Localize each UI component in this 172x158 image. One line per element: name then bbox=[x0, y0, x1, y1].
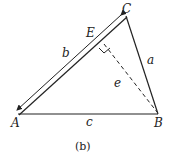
caption: (b) bbox=[75, 140, 91, 153]
vector-b-arrow bbox=[17, 15, 121, 110]
label-side-b: b bbox=[62, 46, 70, 60]
side-b bbox=[19, 17, 127, 115]
diagram-canvas: A B C E a b c e (b) bbox=[0, 0, 172, 158]
triangle-diagram: A B C E a b c e (b) bbox=[0, 0, 172, 158]
label-A: A bbox=[10, 116, 20, 130]
label-e: e bbox=[114, 76, 121, 90]
label-C: C bbox=[122, 2, 131, 16]
label-side-a: a bbox=[147, 53, 154, 67]
label-E: E bbox=[85, 26, 95, 40]
label-B: B bbox=[153, 116, 163, 130]
label-side-c: c bbox=[86, 115, 93, 129]
right-angle-mark bbox=[99, 48, 110, 53]
